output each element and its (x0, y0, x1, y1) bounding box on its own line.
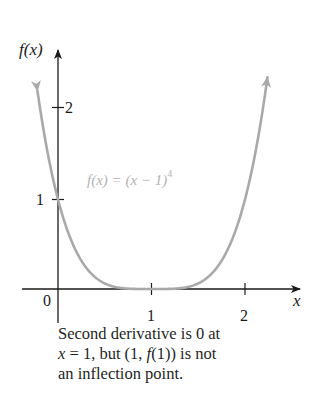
origin-label: 0 (43, 292, 51, 309)
caption-line-1: Second derivative is 0 at (58, 324, 318, 344)
caption-text-mid: = 1, but (1, (65, 344, 146, 363)
x-tick-label-1: 1 (147, 307, 155, 324)
figure-caption: Second derivative is 0 at x = 1, but (1,… (58, 324, 318, 384)
curve-equation-label: f(x) = (x − 1)4 (87, 168, 172, 189)
y-axis-label: f(x) (19, 40, 43, 59)
caption-text-end: (1)) is not (151, 344, 216, 363)
caption-line-3: an inflection point. (58, 364, 318, 384)
y-tick-label-2: 2 (65, 99, 73, 116)
y-tick-label-1: 1 (36, 191, 44, 208)
x-tick-label-2: 2 (240, 307, 248, 324)
caption-line-2: x = 1, but (1, f(1)) is not (58, 344, 318, 364)
x-axis-label: x (292, 291, 301, 310)
